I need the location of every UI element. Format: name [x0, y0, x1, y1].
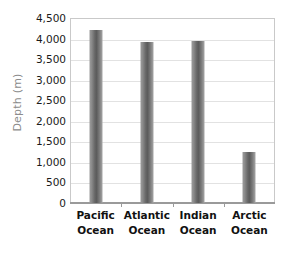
- y-tick-label: 4,500: [14, 12, 66, 24]
- x-axis-tick-mark: [121, 203, 122, 207]
- bar-slot: [224, 18, 275, 203]
- y-tick-label: 3,000: [14, 74, 66, 86]
- x-category-label-line2: Ocean: [121, 223, 172, 238]
- y-tick-label: 2,000: [14, 115, 66, 127]
- x-category-label-line1: Arctic: [232, 209, 266, 221]
- bar[interactable]: [243, 152, 256, 203]
- x-category-label-line1: Indian: [180, 209, 217, 221]
- x-axis-tick-mark: [173, 203, 174, 207]
- bar[interactable]: [89, 30, 102, 203]
- x-category-label-line1: Atlantic: [124, 209, 170, 221]
- x-category-label: AtlanticOcean: [121, 208, 172, 237]
- x-axis-tick-mark: [224, 203, 225, 207]
- bar-slot: [70, 18, 121, 203]
- x-category-label-line2: Ocean: [173, 223, 224, 238]
- y-tick-label: 0: [14, 197, 66, 209]
- x-category-label-line2: Ocean: [70, 223, 121, 238]
- x-category-label: ArcticOcean: [224, 208, 275, 237]
- bar-slot: [121, 18, 172, 203]
- y-tick-label: 4,000: [14, 33, 66, 45]
- y-tick-label: 500: [14, 176, 66, 188]
- x-category-label: IndianOcean: [173, 208, 224, 237]
- y-axis-tick-labels: 4,5004,0003,5003,0002,5002,0001,5001,000…: [14, 18, 66, 203]
- y-tick-label: 2,500: [14, 94, 66, 106]
- x-category-label-line1: Pacific: [76, 209, 114, 221]
- bars-layer: [70, 18, 275, 203]
- x-axis-category-labels: PacificOceanAtlanticOceanIndianOceanArct…: [70, 208, 275, 250]
- y-tick-label: 1,500: [14, 135, 66, 147]
- y-tick-label: 1,000: [14, 156, 66, 168]
- bar-slot: [173, 18, 224, 203]
- bar[interactable]: [140, 42, 153, 203]
- bar-chart: Depth (m) 4,5004,0003,5003,0002,5002,000…: [0, 0, 289, 253]
- bar[interactable]: [192, 41, 205, 203]
- y-tick-label: 3,500: [14, 53, 66, 65]
- x-category-label: PacificOcean: [70, 208, 121, 237]
- x-category-label-line2: Ocean: [224, 223, 275, 238]
